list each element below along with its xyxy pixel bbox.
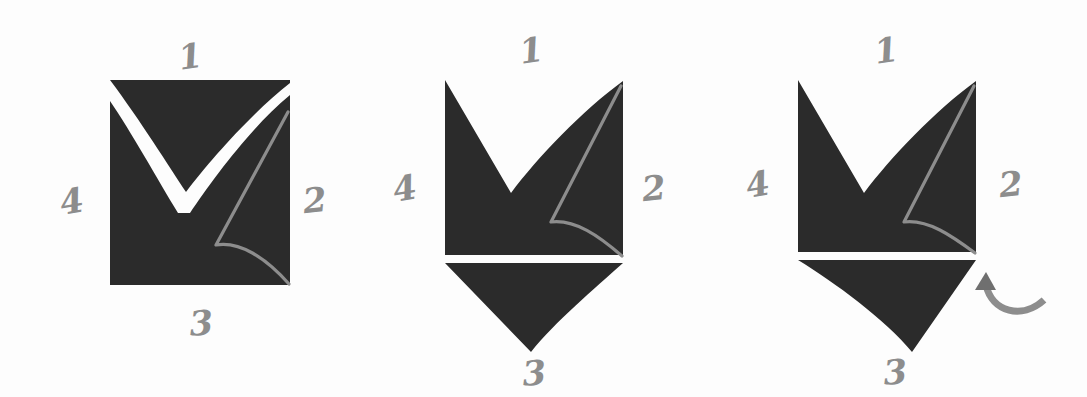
panel-tile-with-notch-and-flap: 1 2 3 4 [365,0,715,397]
tile-body-2 [445,80,623,255]
label-edge-left-3: 4 [743,162,773,206]
tile-body-3 [798,80,976,252]
label-edge-bottom-1: 3 [188,302,214,344]
label-edge-right-3: 2 [996,163,1025,205]
label-edge-bottom-2: 3 [521,352,547,394]
label-edge-left-1: 4 [57,179,87,223]
panel-2-graphic: 1 2 3 4 [365,0,715,397]
label-edge-right-1: 2 [300,179,329,221]
label-edge-left-2: 4 [390,166,420,210]
bottom-flap-2 [445,263,623,352]
label-edge-top-1: 1 [176,35,205,78]
diagram-canvas: 1 2 3 4 1 2 3 4 [0,0,1087,397]
rotate-arrow [975,272,1044,311]
label-edge-top-2: 1 [517,29,546,72]
label-edge-top-3: 1 [872,29,901,72]
panel-3-graphic: 1 2 3 4 [700,0,1087,397]
bottom-flap-3 [798,260,976,352]
label-edge-right-2: 2 [639,167,668,209]
panel-original-square-tile: 1 2 3 4 [0,0,370,397]
label-edge-bottom-3: 3 [882,351,908,393]
panel-1-graphic: 1 2 3 4 [0,0,370,397]
panel-tile-with-rotated-flap: 1 2 3 4 [700,0,1087,397]
